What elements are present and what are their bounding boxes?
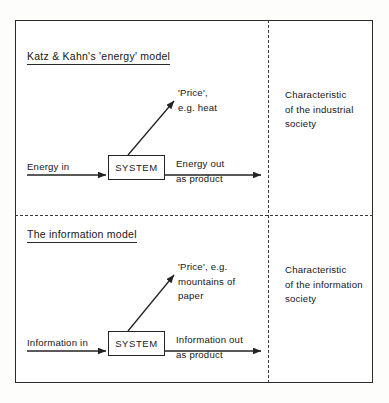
byproduct-label-information-line-2: mountains of [178, 275, 235, 290]
output-label-energy-line-2: as product [176, 172, 224, 187]
input-label-energy: Energy in [27, 160, 69, 175]
output-label-energy: Energy out as product [176, 157, 224, 186]
characteristic-information-line-2: of the information [285, 278, 363, 293]
output-label-information-line-2: as product [176, 348, 243, 363]
characteristic-information-line-1: Characteristic [285, 263, 363, 278]
panel-title-information: The information model [27, 228, 137, 243]
byproduct-label-information-line-3: paper [178, 289, 235, 304]
byproduct-label-energy-line-2: e.g. heat [178, 101, 217, 116]
output-label-information: Information out as product [176, 333, 243, 362]
characteristic-label-information: Characteristic of the information societ… [285, 263, 363, 307]
figure-canvas: Katz & Kahn's 'energy' model SYSTEM Ener… [0, 0, 389, 403]
system-box-information: SYSTEM [108, 331, 165, 356]
byproduct-label-energy: 'Price', e.g. heat [178, 86, 217, 115]
byproduct-label-energy-line-1: 'Price', [178, 86, 217, 101]
characteristic-industrial-line-1: Characteristic [285, 88, 353, 103]
vertical-dashed-divider [268, 20, 269, 383]
byproduct-label-information: 'Price', e.g. mountains of paper [178, 260, 235, 304]
panel-title-energy: Katz & Kahn's 'energy' model [27, 50, 170, 65]
characteristic-information-line-3: society [285, 292, 363, 307]
figure-frame [15, 20, 373, 383]
system-box-information-label: SYSTEM [115, 338, 158, 349]
horizontal-dashed-divider [15, 215, 373, 216]
system-box-energy: SYSTEM [108, 155, 165, 180]
byproduct-label-information-line-1: 'Price', e.g. [178, 260, 235, 275]
output-label-information-line-1: Information out [176, 333, 243, 348]
characteristic-label-industrial: Characteristic of the industrial society [285, 88, 353, 132]
output-label-energy-line-1: Energy out [176, 157, 224, 172]
system-box-energy-label: SYSTEM [115, 162, 158, 173]
input-label-information: Information in [27, 336, 88, 351]
characteristic-industrial-line-2: of the industrial [285, 103, 353, 118]
characteristic-industrial-line-3: society [285, 117, 353, 132]
